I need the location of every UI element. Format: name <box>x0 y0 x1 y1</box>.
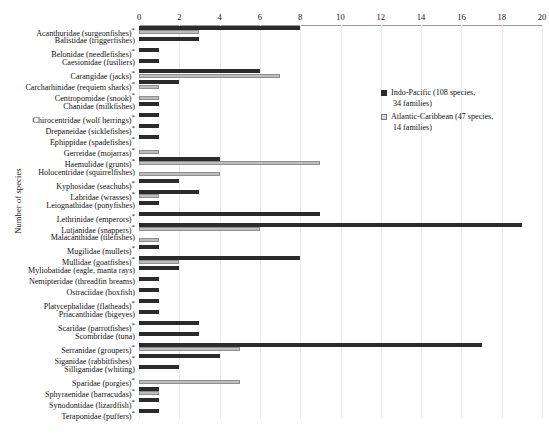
bar-indo-pacific <box>139 321 199 325</box>
bar-indo-pacific <box>139 26 300 30</box>
legend-swatch-atlantic-caribbean <box>381 114 387 120</box>
chart-row: Leiognathidae (ponyfishes) <box>139 200 542 211</box>
chart-row: Sparidae (porgies)* <box>139 375 542 386</box>
y-axis-title: Number of species <box>13 131 23 271</box>
x-tick-label: 6 <box>258 12 262 22</box>
bar-indo-pacific <box>139 201 159 205</box>
category-label: Priacanthidae (bigeyes) <box>59 309 135 320</box>
bar-atlantic-caribbean <box>139 172 220 176</box>
bar-indo-pacific <box>139 113 159 117</box>
x-tick-label: 20 <box>538 12 547 22</box>
chart-row: Mullidae (goatfishes)* <box>139 255 542 266</box>
bar-atlantic-caribbean <box>139 30 199 34</box>
bar-indo-pacific <box>139 277 159 281</box>
chart-row: Carangidae (jacks)* <box>139 69 542 80</box>
bar-indo-pacific <box>139 69 260 73</box>
bar-indo-pacific <box>139 223 522 227</box>
bar-indo-pacific <box>139 256 300 260</box>
category-label: Nemipteridae (threadfin breams) <box>29 276 135 287</box>
chart-row: Sphyraenidae (barracudas)* <box>139 386 542 397</box>
bar-atlantic-caribbean <box>139 161 320 165</box>
bar-indo-pacific <box>139 37 199 41</box>
chart-row: Belonidae (needlefishes)* <box>139 47 542 58</box>
x-tick-label: 16 <box>457 12 466 22</box>
chart-row: Gerreidae (mojarras)* <box>139 145 542 156</box>
chart-row: Ostraciidae (boxfish) <box>139 288 542 299</box>
x-tick-label: 4 <box>217 12 221 22</box>
category-label: Holocentridae (squirrelfishes) <box>38 167 135 178</box>
bar-indo-pacific <box>139 365 179 369</box>
category-label: Chanidae (milkfishes) <box>63 101 135 112</box>
bar-atlantic-caribbean <box>139 260 179 264</box>
legend-swatch-indo-pacific <box>381 90 387 96</box>
bar-indo-pacific <box>139 190 199 194</box>
bar-atlantic-caribbean <box>139 194 159 198</box>
chart-row: Malacanthidae (tilefishes) <box>139 233 542 244</box>
category-label: Myliobatidae (eagle, manta rays) <box>28 265 135 276</box>
chart-row: Lethrinidae (emperors)* <box>139 211 542 222</box>
bar-indo-pacific <box>139 212 320 216</box>
bar-indo-pacific <box>139 343 482 347</box>
chart-row: Acanthuridae (surgeonfishes)* <box>139 25 542 36</box>
chart-row: Serranidae (groupers)* <box>139 342 542 353</box>
bar-indo-pacific <box>139 310 159 314</box>
bar-atlantic-caribbean <box>139 85 159 89</box>
legend-item[interactable]: Indo-Pacific (108 species,34 families) <box>381 88 493 109</box>
species-bar-chart: Number of species 02468101214161820 Acan… <box>0 0 549 445</box>
bar-atlantic-caribbean <box>139 380 240 384</box>
chart-row: Myliobatidae (eagle, manta rays) <box>139 266 542 277</box>
x-tick-label: 2 <box>177 12 181 22</box>
category-label: Teraponidae (puffers)* <box>61 408 135 422</box>
category-label: Scombridae (tuna) <box>75 331 135 342</box>
x-tick-label: 14 <box>417 12 426 22</box>
legend-label-line1: Atlantic-Caribbean (47 species, <box>391 112 493 121</box>
category-label: Malacanthidae (tilefishes) <box>51 232 135 243</box>
chart-row: Mugilidae (mullets)* <box>139 244 542 255</box>
x-tick-label: 8 <box>298 12 302 22</box>
bar-indo-pacific <box>139 48 159 52</box>
bar-indo-pacific <box>139 179 179 183</box>
bar-indo-pacific <box>139 135 159 139</box>
bar-indo-pacific <box>139 59 159 63</box>
chart-row: Lutjanidae (snappers)* <box>139 222 542 233</box>
x-tick-label: 0 <box>137 12 141 22</box>
bar-indo-pacific <box>139 387 159 391</box>
plot-area: Acanthuridae (surgeonfishes)*Balistidae … <box>139 25 542 419</box>
x-tick-label: 10 <box>336 12 345 22</box>
bar-atlantic-caribbean <box>139 238 159 242</box>
gridline <box>542 25 543 419</box>
bar-atlantic-caribbean <box>139 391 159 395</box>
legend-label-line2: 34 families) <box>391 99 493 110</box>
chart-row: Nemipteridae (threadfin breams) <box>139 277 542 288</box>
legend-label-line1: Indo-Pacific (108 species, <box>391 88 475 97</box>
legend-label-line2: 14 families) <box>391 123 493 134</box>
bar-atlantic-caribbean <box>139 347 240 351</box>
x-tick-label: 18 <box>497 12 506 22</box>
bar-atlantic-caribbean <box>139 96 159 100</box>
chart-row: Scombridae (tuna) <box>139 331 542 342</box>
bar-atlantic-caribbean <box>139 150 159 154</box>
chart-row: Synodontidae (lizardfish)* <box>139 397 542 408</box>
x-tick-label: 12 <box>377 12 386 22</box>
chart-row: Siganidae (rabbitfishes)* <box>139 353 542 364</box>
category-label: Balistidae (triggerfishes) <box>55 35 135 46</box>
category-label: Silliganidae (whiting) <box>64 364 135 375</box>
bar-indo-pacific <box>139 288 159 292</box>
bar-indo-pacific <box>139 157 220 161</box>
bar-indo-pacific <box>139 299 159 303</box>
chart-row: Caesionidae (fusiliers) <box>139 58 542 69</box>
bar-indo-pacific <box>139 266 179 270</box>
chart-row: Scaridae (parrotfishes)* <box>139 321 542 332</box>
bar-indo-pacific <box>139 398 159 402</box>
bar-atlantic-caribbean <box>139 74 280 78</box>
category-label: Ostraciidae (boxfish) <box>66 287 135 298</box>
chart-row: Teraponidae (puffers)* <box>139 408 542 419</box>
bar-indo-pacific <box>139 102 159 106</box>
chart-row: Platycephalidae (flatheads)* <box>139 299 542 310</box>
chart-row: Silliganidae (whiting) <box>139 364 542 375</box>
chart-row: Balistidae (triggerfishes) <box>139 36 542 47</box>
bar-indo-pacific <box>139 409 159 413</box>
chart-row: Ephippidae (spadefishes)* <box>139 134 542 145</box>
legend-item[interactable]: Atlantic-Caribbean (47 species,14 famili… <box>381 112 493 133</box>
chart-row: Kyphosidae (seachubs)* <box>139 178 542 189</box>
